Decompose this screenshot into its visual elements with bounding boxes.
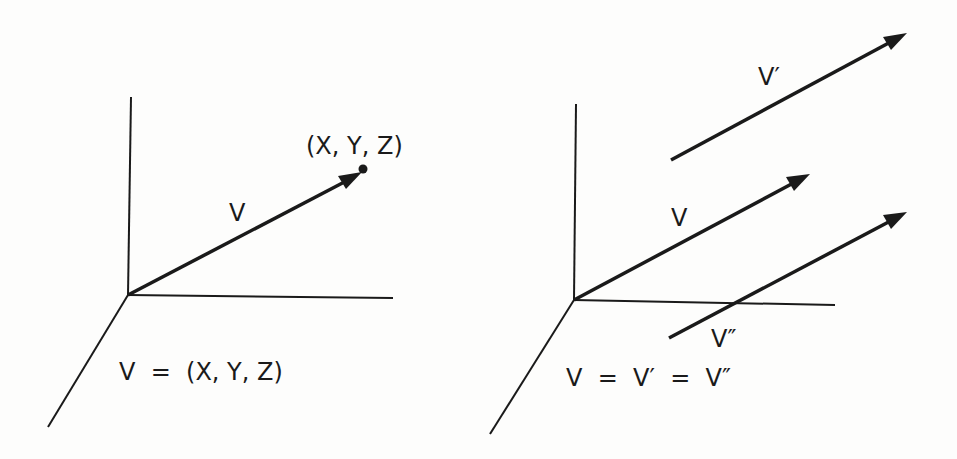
point-dot-icon: [359, 165, 368, 174]
arrowhead-icon: [786, 174, 810, 191]
right-z-axis: [574, 104, 576, 300]
diagram-lines: [0, 0, 957, 459]
right-equation: V = V′ = V″: [566, 366, 731, 390]
right-vector-label: V: [671, 206, 687, 230]
arrowhead-icon: [883, 33, 907, 50]
point-label: (X, Y, Z): [306, 134, 403, 158]
v-prime-label: V′: [758, 65, 780, 89]
left-vector-v: [128, 165, 368, 296]
left-y-axis: [48, 295, 128, 427]
left-equation: V = (X, Y, Z): [119, 360, 283, 384]
vector-figure: (X, Y, Z) V V = (X, Y, Z) V′ V V″ V = V′…: [0, 0, 957, 459]
left-x-axis: [128, 295, 393, 298]
left-vector-label: V: [229, 201, 245, 225]
vector-v-prime: [671, 33, 907, 160]
right-x-axis: [574, 300, 835, 305]
v-double-prime-label: V″: [711, 327, 736, 351]
arrowhead-icon: [338, 172, 362, 189]
arrowhead-icon: [883, 212, 907, 229]
left-z-axis: [128, 97, 131, 295]
right-y-axis: [490, 300, 574, 434]
